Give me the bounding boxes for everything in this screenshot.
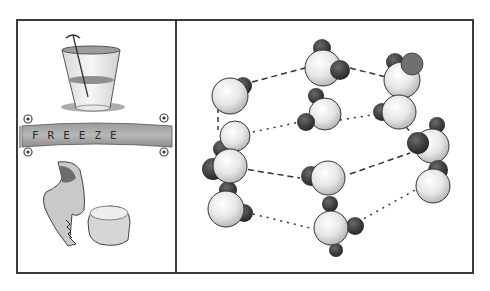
water-molecule bbox=[212, 77, 252, 114]
glass-of-water-icon bbox=[61, 35, 125, 112]
water-molecule bbox=[314, 211, 364, 257]
cracked-glass-icon bbox=[43, 162, 84, 246]
freeze-label: FREEZE bbox=[32, 129, 126, 142]
freeze-banner: FREEZE bbox=[20, 114, 172, 156]
illustration-canvas: FREEZE bbox=[0, 0, 490, 291]
water-molecule bbox=[305, 39, 350, 86]
water-molecule bbox=[373, 95, 416, 129]
ice-block-icon bbox=[88, 206, 130, 245]
water-molecule bbox=[384, 53, 423, 98]
water-molecule bbox=[297, 88, 341, 131]
water-molecule bbox=[416, 160, 450, 203]
water-molecule bbox=[301, 161, 345, 212]
water-molecule bbox=[407, 117, 449, 163]
water-molecule bbox=[208, 191, 253, 227]
